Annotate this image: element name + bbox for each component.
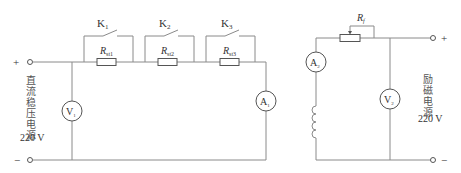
svg-text:Rst2: Rst2 bbox=[160, 45, 174, 57]
ammeter-a1: A1 bbox=[256, 91, 276, 111]
svg-text:K3: K3 bbox=[221, 17, 233, 31]
minus-sign: − bbox=[441, 154, 447, 166]
left-circuit: + − K1 K2 bbox=[13, 17, 276, 166]
negative-terminal bbox=[28, 158, 33, 163]
minus-sign: − bbox=[14, 154, 20, 166]
source-voltage: 220 V bbox=[418, 113, 443, 124]
svg-text:流: 流 bbox=[26, 85, 36, 97]
svg-text:K1: K1 bbox=[97, 17, 109, 31]
resistor-rst3: Rst3 bbox=[220, 45, 239, 66]
svg-text:励: 励 bbox=[423, 73, 433, 85]
resistor-rst1: Rst1 bbox=[97, 45, 116, 66]
svg-text:磁: 磁 bbox=[423, 84, 433, 96]
rheostat-rf: Rf bbox=[340, 12, 366, 42]
svg-text:压: 压 bbox=[26, 108, 36, 119]
svg-text:K2: K2 bbox=[159, 17, 171, 31]
circuit-diagram: + − K1 K2 bbox=[0, 0, 461, 173]
svg-text:直: 直 bbox=[26, 74, 36, 86]
inductor-icon bbox=[312, 106, 316, 138]
resistor-rst2: Rst2 bbox=[158, 45, 177, 66]
dc-source-label: 直 流 稳 压 电 源 220 V bbox=[20, 74, 45, 143]
negative-terminal bbox=[431, 158, 436, 163]
positive-terminal bbox=[431, 36, 436, 41]
svg-text:电: 电 bbox=[26, 118, 36, 130]
ammeter-a2: A2 bbox=[306, 52, 326, 72]
svg-text:电: 电 bbox=[423, 95, 433, 107]
plus-sign: + bbox=[441, 32, 447, 44]
svg-text:Rst3: Rst3 bbox=[222, 45, 236, 57]
voltmeter-v2: V2 bbox=[380, 89, 400, 109]
positive-terminal bbox=[28, 60, 33, 65]
svg-text:Rst1: Rst1 bbox=[99, 45, 113, 57]
plus-sign: + bbox=[13, 56, 19, 68]
excitation-source-label: 励 磁 电 源 220 V bbox=[418, 73, 443, 124]
svg-text:Rf: Rf bbox=[356, 12, 366, 24]
source-voltage: 220 V bbox=[20, 132, 45, 143]
voltmeter-v1: V1 bbox=[62, 101, 82, 121]
right-circuit: Rf A2 V2 + − 励 磁 电 源 220 V bbox=[306, 12, 447, 166]
svg-text:稳: 稳 bbox=[26, 96, 36, 108]
